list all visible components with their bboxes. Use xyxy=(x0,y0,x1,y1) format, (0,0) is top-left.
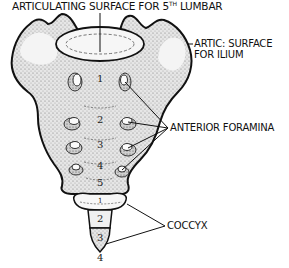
label-articulating-surface: ARTICULATING SURFACE FOR 5TH LUMBAR xyxy=(12,1,222,12)
label-coccyx: COCCYX xyxy=(167,221,207,231)
label-superscript: TH xyxy=(169,0,177,7)
coccyx-number-1: 1 xyxy=(98,198,102,205)
label-text: ARTICULATING SURFACE FOR 5 xyxy=(12,0,169,12)
sacral-number-4: 4 xyxy=(97,161,103,171)
sacral-number-5: 5 xyxy=(97,178,103,188)
label-text-tail: LUMBAR xyxy=(177,0,223,12)
label-anterior-foramina: ANTERIOR FORAMINA xyxy=(170,123,274,133)
coccyx-number-3: 3 xyxy=(97,233,103,243)
sacral-number-3: 3 xyxy=(97,140,103,150)
label-line-2: FOR ILIUM xyxy=(194,50,272,60)
sacrum-diagram: ARTICULATING SURFACE FOR 5TH LUMBAR ARTI… xyxy=(0,0,289,268)
coccyx-number-4: 4 xyxy=(97,253,103,263)
sacral-number-1: 1 xyxy=(97,74,103,84)
sacral-number-2: 2 xyxy=(97,115,103,125)
label-line-1: ARTIC: SURFACE xyxy=(194,39,272,49)
coccyx-number-2: 2 xyxy=(97,214,103,224)
label-artic-surface-ilium: ARTIC: SURFACE FOR ILIUM xyxy=(194,39,272,60)
